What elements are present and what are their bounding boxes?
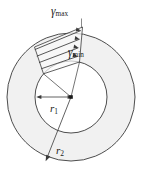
gamma-min-label: γmin — [68, 43, 84, 59]
r1-subscript: 1 — [54, 107, 58, 116]
center-point-marker — [69, 95, 73, 99]
r1-label: r1 — [50, 99, 58, 116]
gamma-max-subscript: max — [56, 10, 69, 18]
r2-subscript: 2 — [60, 149, 64, 158]
shear-strain-diagram: γmax γmin r1 r2 — [0, 0, 147, 173]
gamma-min-subscript: min — [73, 51, 84, 59]
r2-label: r2 — [56, 141, 64, 158]
gamma-max-label: γmax — [51, 2, 68, 18]
annulus-cross-section-svg — [0, 0, 147, 173]
